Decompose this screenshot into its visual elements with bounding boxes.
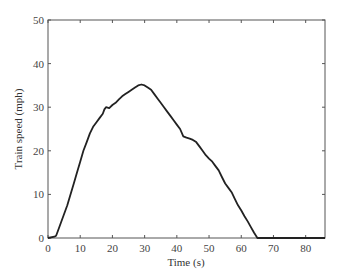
y-tick-label: 30	[33, 101, 45, 113]
x-tick-labels: 01020304050607080	[45, 242, 311, 254]
x-axis-label: Time (s)	[167, 256, 205, 269]
y-tick-label: 20	[33, 145, 45, 157]
y-axis-label: Train speed (mph)	[12, 88, 25, 169]
y-tick-labels: 01020304050	[33, 14, 45, 244]
x-tick-label: 0	[45, 242, 51, 254]
x-tick-label: 10	[75, 242, 87, 254]
x-tick-label: 20	[107, 242, 119, 254]
x-tick-label: 30	[139, 242, 151, 254]
y-tick-label: 40	[33, 58, 45, 70]
y-tick-label: 0	[39, 232, 45, 244]
x-tick-label: 80	[300, 242, 312, 254]
x-tick-label: 60	[236, 242, 248, 254]
x-tick-label: 50	[204, 242, 216, 254]
plot-frame	[48, 20, 325, 238]
x-tick-label: 70	[268, 242, 280, 254]
x-tick-label: 40	[171, 242, 183, 254]
chart: 01020304050607080 01020304050 Time (s) T…	[0, 0, 338, 276]
y-tick-label: 50	[33, 14, 45, 26]
y-tick-label: 10	[33, 188, 45, 200]
